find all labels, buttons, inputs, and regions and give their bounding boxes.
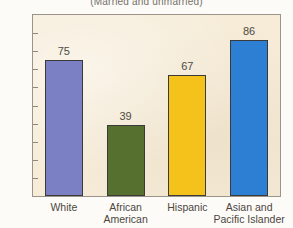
y-axis-tick-mark: [33, 106, 38, 107]
bar-value-label: 86: [227, 26, 271, 37]
y-axis-tick-mark: [33, 178, 38, 179]
y-axis-tick-mark: [33, 69, 38, 70]
bar: [230, 40, 268, 196]
plot-area: [32, 14, 281, 197]
y-axis-tick-mark: [33, 142, 38, 143]
x-axis-category-line: Pacific Islander: [204, 213, 293, 225]
y-axis-tick-mark: [33, 87, 38, 88]
y-axis-tick-mark: [33, 51, 38, 52]
x-axis-category-line: Asian and: [204, 201, 293, 213]
bar-value-label: 67: [165, 61, 209, 72]
y-axis-tick-mark: [33, 160, 38, 161]
bar: [107, 125, 145, 196]
y-axis-tick-mark: [33, 33, 38, 34]
bar-value-label: 39: [104, 111, 148, 122]
x-axis-category-line: American: [81, 213, 171, 225]
bar: [45, 60, 83, 196]
bar-value-label: 75: [42, 46, 86, 57]
y-axis-tick-mark: [33, 124, 38, 125]
x-axis-category-label: Asian andPacific Islander: [204, 201, 293, 225]
bar: [168, 75, 206, 196]
chart-title: (Married and unmarried): [0, 0, 293, 7]
bar-chart: (Married and unmarried) 1009080706050403…: [0, 0, 293, 228]
